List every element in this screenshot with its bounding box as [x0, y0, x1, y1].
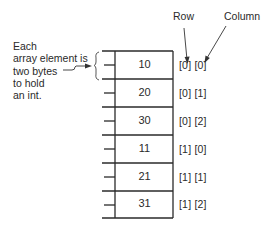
annotation-line: an int. — [13, 89, 88, 101]
cell-value: 21 — [116, 170, 173, 182]
annotation-line: two bytes — [13, 65, 88, 77]
cell-index: [1] [1] — [179, 171, 207, 183]
annotation-line: Each — [13, 40, 88, 52]
row-label: Row — [173, 10, 194, 22]
cell-index: [0] [1] — [179, 87, 207, 99]
cell-value: 10 — [116, 58, 173, 70]
annotation-line: array element is — [13, 52, 88, 64]
cell-value: 11 — [116, 142, 173, 154]
brace-icon — [94, 52, 99, 80]
annotation-line: to hold — [13, 77, 88, 89]
row-arrow-icon — [184, 28, 187, 60]
cell-index: [0] [2] — [179, 115, 207, 127]
cell-index: [0] [0] — [179, 59, 207, 71]
column-arrow-icon — [207, 26, 226, 58]
cell-value: 31 — [116, 197, 173, 209]
cell-value: 30 — [116, 114, 173, 126]
cell-index: [1] [2] — [179, 198, 207, 210]
element-size-annotation: Each array element is two bytes to hold … — [13, 40, 88, 101]
cell-value: 20 — [116, 86, 173, 98]
cell-index: [1] [0] — [179, 143, 207, 155]
column-label: Column — [224, 10, 260, 22]
